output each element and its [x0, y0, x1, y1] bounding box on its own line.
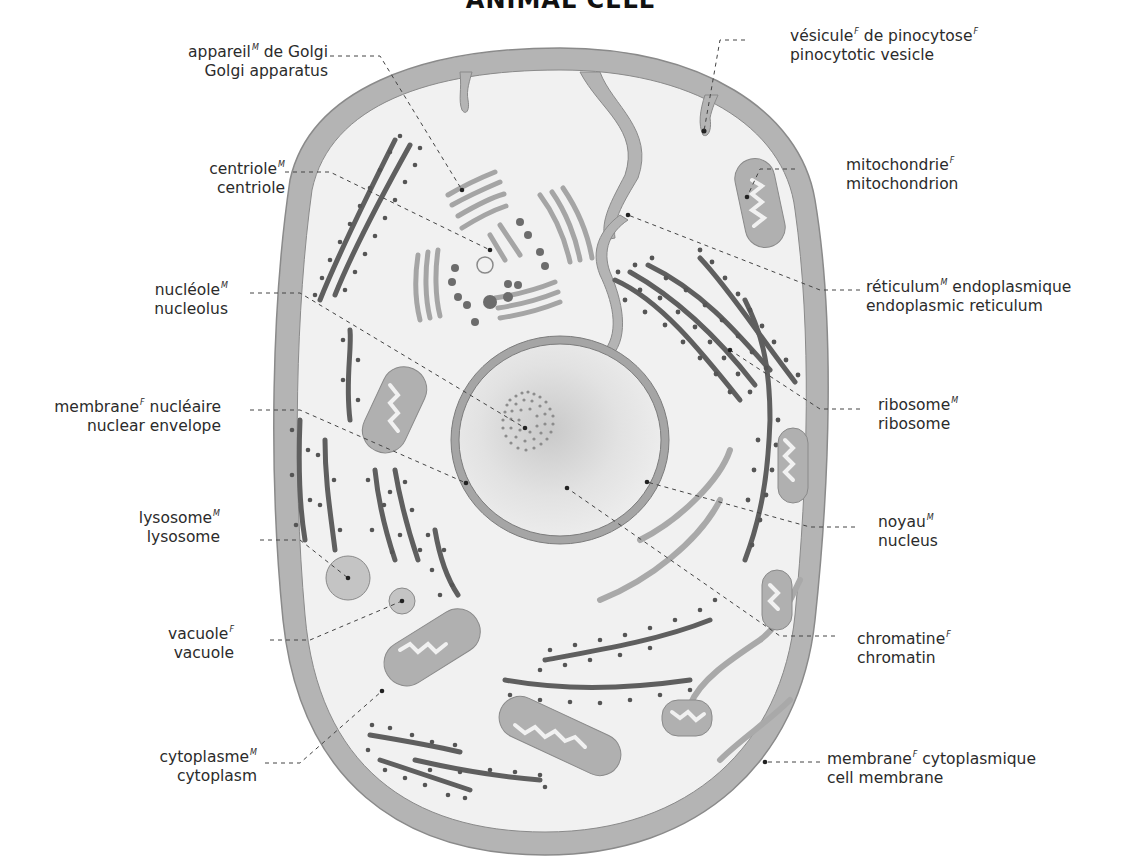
label-pinocytotic-vesicle: vésiculeF de pinocytoseF pinocytotic ves… — [790, 22, 978, 65]
label-cytoplasm: cytoplasmeM cytoplasm — [159, 743, 257, 786]
label-lysosome: lysosomeM lysosome — [139, 504, 220, 547]
label-endoplasmic-reticulum: réticulumM endoplasmique endoplasmic ret… — [866, 273, 1071, 316]
label-chromatin: chromatineF chromatin — [857, 625, 951, 668]
label-mitochondrion: mitochondrieF mitochondrion — [846, 151, 958, 194]
label-nucleus: noyauM nucleus — [878, 508, 938, 551]
label-ribosome: ribosomeM ribosome — [878, 391, 958, 434]
label-centriole: centrioleM centriole — [209, 155, 285, 198]
label-golgi-apparatus: appareilM de Golgi Golgi apparatus — [188, 38, 328, 81]
label-vacuole: vacuoleF vacuole — [168, 620, 234, 663]
label-nucleolus: nucléoleM nucleolus — [154, 276, 228, 319]
label-nuclear-envelope: membraneF nucléaire nuclear envelope — [54, 393, 221, 436]
label-cell-membrane: membraneF cytoplasmique cell membrane — [827, 745, 1036, 788]
